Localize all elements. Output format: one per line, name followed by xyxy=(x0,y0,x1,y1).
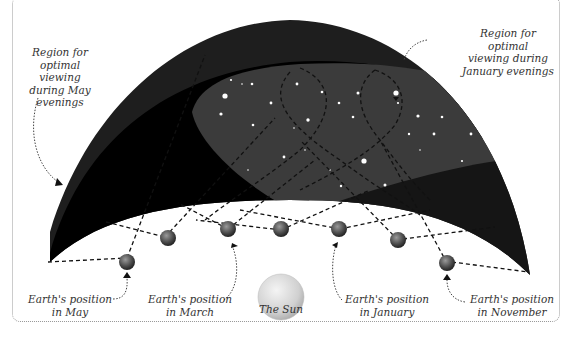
earth-february xyxy=(273,221,289,237)
earth-positions xyxy=(119,221,455,271)
label-earth-march: Earth's position in March xyxy=(145,293,235,318)
earth-may xyxy=(119,254,135,270)
earth-january xyxy=(331,221,347,237)
label-earth-may: Earth's position in May xyxy=(26,293,114,318)
earth-december xyxy=(390,232,406,248)
label-january-region: Region for optimal viewing during Januar… xyxy=(460,27,556,77)
ground-wedge xyxy=(292,205,372,222)
earth-april xyxy=(160,230,176,246)
label-may-region: Region for optimal viewing during May ev… xyxy=(20,46,100,109)
earth-march xyxy=(220,221,236,237)
label-sun: The Sun xyxy=(251,303,311,316)
label-earth-november: Earth's position in November xyxy=(466,293,558,318)
label-earth-january: Earth's position in January xyxy=(342,293,432,318)
earth-november xyxy=(439,255,455,271)
